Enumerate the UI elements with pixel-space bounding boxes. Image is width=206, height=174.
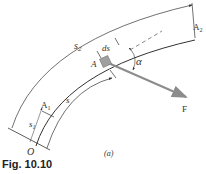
figure-caption: Fig. 10.10	[2, 158, 52, 170]
s-dimension-arc	[47, 78, 112, 148]
label-f: F	[182, 104, 187, 114]
label-a1: A1	[41, 100, 51, 111]
a2-tick	[192, 3, 195, 38]
force-arrow	[106, 62, 186, 97]
s-end-tick	[110, 70, 116, 78]
ds-tick-right	[115, 38, 119, 45]
tangent-line	[130, 31, 162, 50]
work-of-force-diagram: s2 A2 ds A α F A1 s1 s O (a)	[0, 0, 206, 174]
label-s: s	[66, 95, 70, 105]
subfigure-label: (a)	[104, 149, 114, 158]
label-ds: ds	[102, 43, 111, 53]
label-s2: s2	[74, 40, 82, 53]
label-o: O	[27, 146, 34, 157]
ds-tick-left	[97, 51, 101, 58]
label-a2: A2	[193, 22, 203, 33]
label-alpha: α	[136, 55, 142, 67]
s2-dimension-arc	[12, 5, 192, 128]
particle-block	[100, 56, 112, 68]
label-s1: s1	[29, 119, 36, 130]
path-curve	[36, 40, 195, 146]
label-a: A	[90, 59, 97, 69]
alpha-angle-arc	[131, 50, 135, 70]
